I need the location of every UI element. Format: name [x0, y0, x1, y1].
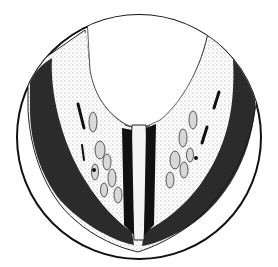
dot-right — [194, 156, 198, 160]
dot-left — [92, 168, 96, 172]
cross-section-illustration — [0, 0, 278, 267]
illustration-canvas — [0, 0, 278, 267]
